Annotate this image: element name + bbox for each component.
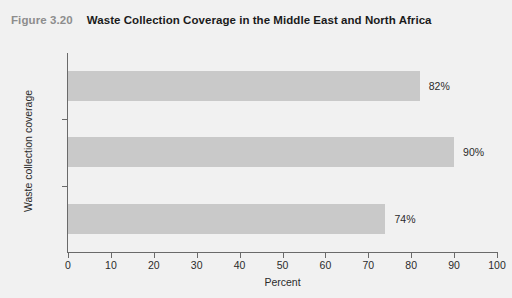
bar-value-label: 74% — [385, 204, 415, 234]
x-axis-tick-label: 50 — [277, 259, 289, 271]
x-axis-tick — [240, 253, 241, 258]
x-axis-tick — [325, 253, 326, 258]
y-axis-tick — [62, 119, 67, 120]
x-axis-tick-label: 90 — [448, 259, 460, 271]
x-axis-tick — [111, 253, 112, 258]
bar-row: 74%Rural — [68, 186, 497, 252]
x-axis-tick-label: 70 — [362, 259, 374, 271]
plot-area: 82%Total90%Urban74%Rural — [68, 53, 497, 252]
x-axis-tick — [411, 253, 412, 258]
bar-rural[interactable] — [68, 204, 385, 234]
x-axis-tick-label: 20 — [148, 259, 160, 271]
bar-row: 90%Urban — [68, 119, 497, 185]
x-axis-tick-label: 60 — [320, 259, 332, 271]
x-axis-title: Percent — [68, 276, 497, 288]
y-axis-tick — [62, 186, 67, 187]
bar-total[interactable] — [68, 71, 420, 101]
bar-urban[interactable] — [68, 137, 454, 167]
x-axis-tick — [68, 253, 69, 258]
x-axis-tick — [454, 253, 455, 258]
x-axis-tick-label: 100 — [488, 259, 506, 271]
x-axis-tick — [283, 253, 284, 258]
x-axis-tick-label: 10 — [105, 259, 117, 271]
x-axis-tick-label: 0 — [65, 259, 71, 271]
x-axis-tick — [368, 253, 369, 258]
x-axis-tick-label: 40 — [234, 259, 246, 271]
figure-header: Figure 3.20 Waste Collection Coverage in… — [11, 14, 432, 26]
figure-container: Figure 3.20 Waste Collection Coverage in… — [0, 0, 512, 298]
bar-value-label: 90% — [454, 137, 484, 167]
figure-number-label: Figure 3.20 — [11, 14, 73, 26]
x-axis-tick — [154, 253, 155, 258]
x-axis-tick — [497, 253, 498, 258]
x-axis-tick-label: 30 — [191, 259, 203, 271]
bar-value-label: 82% — [420, 71, 450, 101]
figure-title: Waste Collection Coverage in the Middle … — [87, 14, 432, 26]
x-axis-tick — [197, 253, 198, 258]
y-axis-title: Waste collection coverage — [22, 51, 34, 251]
x-axis-tick-label: 80 — [405, 259, 417, 271]
bar-row: 82%Total — [68, 53, 497, 119]
